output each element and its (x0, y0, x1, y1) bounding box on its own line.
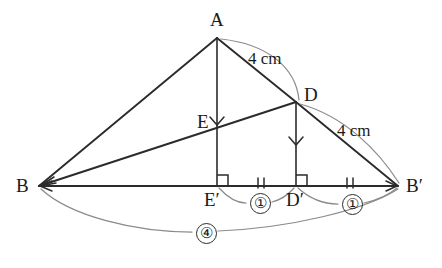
segment-B-D (39, 102, 296, 186)
arc-Eprime-to-ratio1-left (219, 188, 246, 203)
vertex-label-Bprime: B′ (406, 176, 423, 195)
diagram-canvas (0, 0, 442, 268)
length-label-AD: 4 cm (248, 50, 282, 67)
geometry-diagram: A B B′ D E E′ D′ 4 cm 4 cm ① ① ④ (0, 0, 442, 268)
arc-ratio1-right-to-Bprime (364, 188, 397, 203)
right-angle-eprime-icon (217, 175, 228, 186)
arc-Dprime-to-ratio1-right (298, 188, 338, 204)
segment-D-Bprime (296, 102, 398, 186)
arc-B-to-ratio4 (41, 189, 192, 232)
vertex-label-E: E (197, 112, 209, 131)
right-angle-dprime-icon (296, 175, 307, 186)
segment-A-B (39, 38, 217, 186)
length-label-DBprime: 4 cm (337, 122, 371, 139)
vertex-label-Eprime: E′ (204, 190, 220, 209)
vertex-label-B: B (16, 176, 29, 195)
vertex-label-D: D (304, 85, 318, 104)
arc-D-to-Bprime (300, 104, 399, 183)
vertex-label-Dprime: D′ (286, 190, 304, 209)
ratio-label-B-Bprime: ④ (196, 223, 217, 244)
ratio-label-Eprime-Dprime: ① (250, 193, 271, 214)
vertex-label-A: A (210, 10, 224, 29)
ratio-label-Dprime-Bprime: ① (342, 194, 363, 215)
